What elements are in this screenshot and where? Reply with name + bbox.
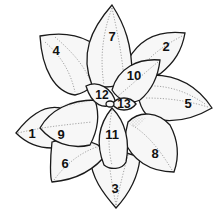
leaf-label-3: 3 <box>111 181 118 196</box>
leaf-label-8: 8 <box>151 146 158 161</box>
leaf-rosette-diagram: 1 2 3 4 5 6 7 8 9 10 11 12 13 <box>0 0 224 220</box>
leaf-label-7: 7 <box>108 29 115 44</box>
leaf-label-2: 2 <box>162 39 169 54</box>
leaf-label-12: 12 <box>95 88 109 102</box>
leaf-label-4: 4 <box>52 43 60 58</box>
leaf-label-6: 6 <box>61 156 68 171</box>
leaf-label-1: 1 <box>28 126 35 141</box>
leaf-label-5: 5 <box>184 96 191 111</box>
leaf-label-13: 13 <box>117 97 131 111</box>
leaf-label-10: 10 <box>127 68 141 83</box>
leaf-label-11: 11 <box>105 127 119 142</box>
leaf-label-9: 9 <box>57 127 64 142</box>
